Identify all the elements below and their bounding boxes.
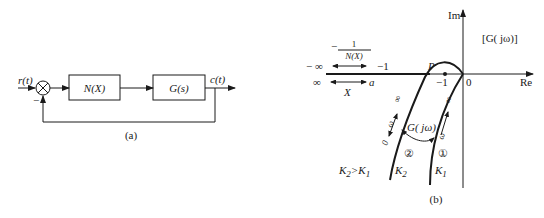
amp-left-end: ∞	[313, 76, 321, 88]
feedback-sign: −	[33, 94, 39, 106]
minus-one-point	[443, 72, 447, 76]
curve-label: G( jω)	[407, 121, 436, 134]
gain-condition: K2>K1	[338, 164, 370, 179]
curve2-gain: K2	[394, 164, 407, 179]
block-diagram: r(t) − N(X) G(s) c(t) (a)	[18, 73, 235, 142]
df-right-end: −1	[377, 60, 389, 72]
summing-junction	[36, 81, 50, 95]
df-left-end: − ∞	[306, 60, 323, 72]
df-denominator: N(X)	[344, 51, 363, 61]
re-axis-label: Re	[520, 76, 532, 88]
amp-right-end: a	[369, 76, 375, 88]
curve2-zero: 0	[379, 139, 390, 147]
minus-one-label: −1	[436, 76, 448, 88]
caption-a: (a)	[125, 129, 138, 142]
df-numerator: 1	[352, 39, 357, 49]
block-gs-label: G(s)	[169, 82, 189, 95]
origin-label: 0	[466, 76, 472, 88]
im-axis-label: Im	[448, 9, 461, 21]
curve1-gain: K1	[434, 164, 447, 179]
curve2-inf: ∞	[391, 94, 403, 103]
curve1-id: ①	[438, 147, 448, 159]
curve1-omega: ω	[435, 131, 447, 140]
curve2-id: ②	[404, 147, 414, 159]
nyquist-plot: Im Re 0 −1 P [G( jω)] − 1 N(X) − ∞ −1 ∞ …	[306, 9, 533, 206]
block-nx-label: N(X)	[83, 82, 106, 95]
output-label: c(t)	[210, 73, 226, 86]
curve1-inf: ∞	[442, 95, 454, 104]
amp-var: X	[343, 86, 352, 98]
input-label: r(t)	[18, 74, 33, 87]
df-neg: −	[331, 40, 337, 52]
caption-b: (b)	[430, 193, 443, 206]
plot-label: [G( jω)]	[482, 32, 518, 45]
figure-canvas: r(t) − N(X) G(s) c(t) (a) Im Re 0 −1 P […	[0, 0, 544, 218]
